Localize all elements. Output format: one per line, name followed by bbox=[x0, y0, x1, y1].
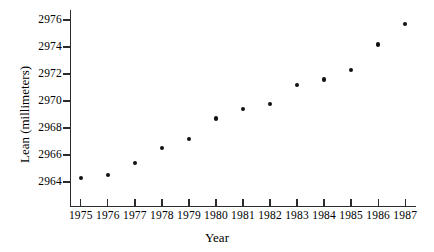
x-axis-tick-label: 1975 bbox=[69, 210, 93, 222]
y-axis-tick-label: 2976 bbox=[38, 14, 62, 26]
x-axis-tick-label: 1986 bbox=[366, 210, 390, 222]
data-point bbox=[268, 102, 272, 106]
y-axis-tick-label: 2974 bbox=[38, 41, 62, 53]
scatter-plot-figure: 2964296629682970297229742976 19751976197… bbox=[0, 0, 434, 252]
data-point bbox=[322, 77, 326, 81]
y-axis-tick-label: 2972 bbox=[38, 68, 62, 80]
y-axis-tick-label: 2970 bbox=[38, 95, 62, 107]
y-axis-tick-label: 2968 bbox=[38, 122, 62, 134]
x-axis-tick-label: 1985 bbox=[339, 210, 363, 222]
x-axis-tick-label: 1980 bbox=[204, 210, 228, 222]
data-point bbox=[376, 42, 380, 46]
x-axis-tick-label: 1984 bbox=[312, 210, 336, 222]
x-axis-tick-label: 1983 bbox=[285, 210, 309, 222]
x-axis-tick-label: 1981 bbox=[231, 210, 255, 222]
data-point bbox=[79, 176, 83, 180]
data-point bbox=[214, 116, 218, 120]
y-axis-tick-label: 2966 bbox=[38, 149, 62, 161]
x-axis-tick-label: 1987 bbox=[393, 210, 417, 222]
data-point bbox=[187, 137, 191, 141]
y-axis-title: Lean (millimeters) bbox=[18, 30, 31, 200]
x-axis-title: Year bbox=[0, 231, 434, 244]
x-axis-tick-label: 1977 bbox=[123, 210, 147, 222]
x-axis-tick-label: 1982 bbox=[258, 210, 282, 222]
x-axis-tick-label: 1978 bbox=[150, 210, 174, 222]
x-axis-tick-label: 1976 bbox=[96, 210, 120, 222]
y-axis-tick-label: 2964 bbox=[38, 176, 62, 188]
x-axis-tick-label: 1979 bbox=[177, 210, 201, 222]
